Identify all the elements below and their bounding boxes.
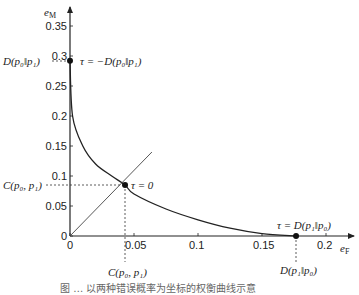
label-c-y: C(p₀, p₁)	[3, 179, 42, 192]
label-d10-x: D(p₁‖p₀)	[279, 264, 317, 277]
highlight-points	[67, 58, 299, 239]
y-tick-label: 0.1	[52, 170, 67, 182]
label-tau-plus: τ = D(p₁‖p₀)	[277, 219, 331, 232]
point-tau-minus-D	[67, 58, 73, 64]
point-tau-zero	[122, 182, 128, 188]
y-tick-label: 0.15	[46, 140, 67, 152]
diagonal-line	[70, 152, 152, 236]
tradeoff-curve	[70, 61, 296, 236]
x-tick-label: 0.1	[189, 239, 204, 251]
y-tick-label: 0	[61, 230, 67, 242]
x-tick-label: 0.15	[253, 239, 274, 251]
label-tau-minus: τ = −D(p₀‖p₁)	[80, 55, 142, 68]
x-tick-label: 0.2	[317, 239, 332, 251]
y-axis-title: eM	[44, 6, 56, 20]
point-tau-plus-D	[293, 233, 299, 239]
label-tau-zero: τ = 0	[131, 179, 154, 191]
x-axis-title: eF	[340, 242, 350, 256]
y-tick-label: 0.2	[52, 110, 67, 122]
x-tick-label: 0	[67, 239, 73, 251]
y-ticks: 00.050.10.150.20.250.30.35	[46, 20, 73, 242]
y-tick-label: 0.3	[52, 50, 67, 62]
y-tick-label: 0.05	[46, 200, 67, 212]
label-d01-y: D(p₀‖p₁)	[2, 55, 40, 68]
x-tick-label: 0.05	[125, 239, 146, 251]
y-tick-label: 0.35	[46, 20, 67, 32]
label-c-x: C(p₀, p₁)	[108, 266, 147, 279]
figure-caption: 图 … 以两种错误概率为坐标的权衡曲线示意	[60, 280, 256, 295]
y-tick-label: 0.25	[46, 80, 67, 92]
